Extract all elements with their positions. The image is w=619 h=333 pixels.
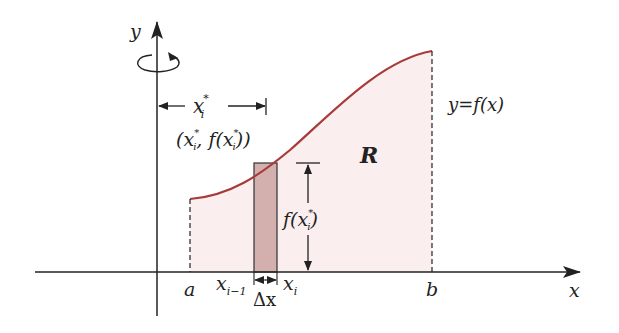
a-label: a <box>184 278 195 300</box>
sample-rectangle <box>254 163 277 272</box>
x-i-label: xi <box>283 272 297 298</box>
y-axis-label: y <box>129 20 141 42</box>
point-label: (x*i, f(x*i)) <box>176 127 251 152</box>
delta-x-label: Δx <box>253 289 276 310</box>
b-label: b <box>426 278 438 300</box>
xstar-label: x*i <box>193 92 209 121</box>
x-i-minus-1-label: xi−1 <box>216 272 246 298</box>
height-label: f(x*i) <box>281 207 318 232</box>
rotation-arrow-icon <box>138 52 179 72</box>
region-r <box>190 51 432 272</box>
region-label: R <box>359 142 378 168</box>
shell-method-diagram: y x x*i (x*i, f(x*i)) f(x*i) R y=f(x) a … <box>0 0 619 333</box>
function-label: y=f(x) <box>447 94 504 115</box>
x-axis-label: x <box>569 279 580 301</box>
